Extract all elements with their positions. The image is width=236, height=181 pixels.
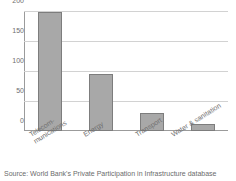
x-axis-labels: Telecom- munications Energy Transport Wa… <box>24 132 228 168</box>
y-axis-tick-0: 0 <box>4 117 24 124</box>
y-axis-tick-150: 150 <box>4 27 24 34</box>
chart-title-clipped <box>0 0 236 5</box>
y-axis-tick-200: 200 <box>4 0 24 4</box>
plot-area <box>24 11 228 131</box>
source-caption: Source: World Bank's Private Participati… <box>4 169 216 178</box>
bar-chart-figure: 200 150 100 50 0 Telecom- munications En… <box>0 0 236 181</box>
y-axis-tick-100: 100 <box>4 57 24 64</box>
y-axis-tick-50: 50 <box>4 87 24 94</box>
